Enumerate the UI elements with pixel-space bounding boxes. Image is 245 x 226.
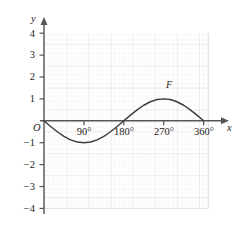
chart-figure: 4 3 2 1 −1 −2 −3 −4 90° 180° 270° 360° y…	[0, 0, 245, 226]
curve-label-F: F	[166, 80, 172, 90]
y-tick-label-4: 4	[18, 29, 35, 40]
y-axis	[40, 24, 45, 214]
x-tick-label-360: 360°	[187, 127, 221, 138]
y-tick-label-1: 1	[18, 94, 35, 105]
x-tick-label-180: 180°	[107, 127, 141, 138]
plot-canvas	[0, 0, 245, 226]
x-tick-label-270: 270°	[147, 127, 181, 138]
y-tick-label-3: 3	[18, 50, 35, 61]
x-tick-label-90: 90°	[70, 127, 98, 138]
y-axis-label: y	[31, 14, 36, 25]
y-tick-label-minus-1: −1	[12, 138, 35, 149]
y-tick-label-2: 2	[18, 72, 35, 83]
y-tick-label-minus-4: −4	[12, 204, 35, 215]
y-tick-label-minus-3: −3	[12, 182, 35, 193]
origin-label: O	[33, 123, 41, 134]
x-axis-label: x	[227, 123, 232, 134]
y-tick-label-minus-2: −2	[12, 160, 35, 171]
